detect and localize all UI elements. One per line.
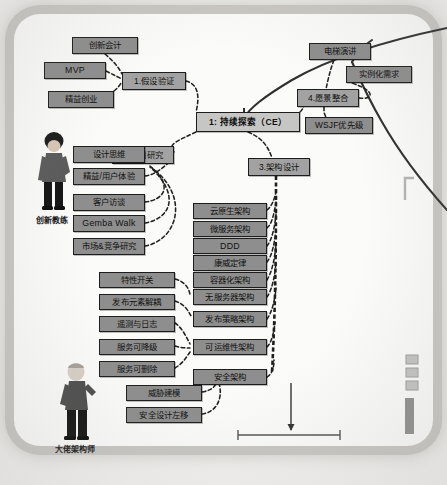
node-branch-b3[interactable]: 3.架构设计	[248, 158, 310, 176]
edge-b1-center	[186, 81, 198, 112]
node-leaf-n22[interactable]: 发布元素解耦	[99, 294, 175, 310]
node-leaf-n09[interactable]: 客户访谈	[73, 194, 145, 211]
edge-n27-n20	[202, 380, 220, 414]
edge-n23-n19	[175, 323, 190, 344]
node-leaf-n03[interactable]: 精益创业	[48, 91, 114, 108]
edge-n03-b1	[114, 82, 122, 91]
node-leaf-n15[interactable]: 康威定律	[193, 255, 267, 271]
node-branch-b4[interactable]: 4.愿景整合	[297, 89, 359, 107]
diagram-canvas: 1: 持续探索（CE）1.假设验证2.协同研究3.架构设计4.愿景整合创新会计M…	[0, 0, 447, 485]
edge-n21-n18	[175, 279, 190, 296]
sweep-curve-right	[352, 62, 447, 210]
persona-label-p2: 大佬架构师	[55, 443, 95, 454]
persona-label-p1: 创新教练	[36, 214, 68, 225]
node-leaf-n12[interactable]: 云原生架构	[193, 203, 267, 219]
edge-n11-b2	[145, 168, 176, 246]
node-branch-b1[interactable]: 1.假设验证	[122, 72, 186, 90]
node-leaf-n19[interactable]: 可运维性架构	[193, 339, 267, 355]
edge-n02-b1	[106, 71, 122, 79]
edge-n25-n19	[175, 352, 190, 368]
persona-figure-architect	[60, 363, 96, 440]
node-leaf-n05[interactable]: 实例化需求	[346, 66, 412, 83]
bottom-scale-marker	[238, 383, 340, 440]
edge-center-b2	[172, 132, 196, 152]
node-leaf-n04[interactable]: 电梯演讲	[309, 43, 371, 60]
node-leaf-n02[interactable]: MVP	[44, 62, 106, 79]
node-leaf-n17[interactable]: 无服务器架构	[193, 289, 267, 305]
node-leaf-n27[interactable]: 安全设计左移	[126, 407, 202, 423]
node-leaf-n10[interactable]: Gemba Walk	[73, 215, 145, 232]
node-leaf-n18[interactable]: 发布策略架构	[193, 311, 267, 327]
node-leaf-n26[interactable]: 威胁建模	[126, 385, 202, 401]
node-leaf-n25[interactable]: 服务可删除	[99, 361, 175, 377]
node-leaf-n21[interactable]: 特性开关	[99, 272, 175, 288]
node-leaf-n13[interactable]: 微服务架构	[193, 221, 267, 237]
offframe-fragments	[405, 178, 418, 434]
node-leaf-n08[interactable]: 精益/用户体验	[73, 168, 145, 185]
node-leaf-n16[interactable]: 容器化架构	[193, 272, 267, 288]
node-center-continuous-exploration[interactable]: 1: 持续探索（CE）	[196, 112, 300, 132]
node-leaf-n11[interactable]: 市场&竞争研究	[73, 238, 145, 255]
edge-n24-n19	[175, 346, 190, 348]
node-leaf-n14[interactable]: DDD	[193, 238, 267, 254]
node-leaf-n07[interactable]: 设计思维	[73, 146, 145, 163]
node-leaf-n23[interactable]: 遥测与日志	[99, 316, 175, 332]
edge-n04-b4	[326, 60, 334, 89]
edge-b4-n06	[324, 107, 326, 117]
node-leaf-n24[interactable]: 服务可降级	[99, 339, 175, 355]
edge-n22-n18	[175, 301, 191, 316]
edge-center-b3	[248, 132, 272, 158]
node-leaf-n20[interactable]: 安全架构	[193, 369, 267, 385]
persona-figure-innovation-coach	[38, 132, 70, 210]
node-leaf-n01[interactable]: 创新会计	[72, 37, 138, 54]
node-leaf-n06[interactable]: WSJF优先级	[305, 117, 373, 134]
